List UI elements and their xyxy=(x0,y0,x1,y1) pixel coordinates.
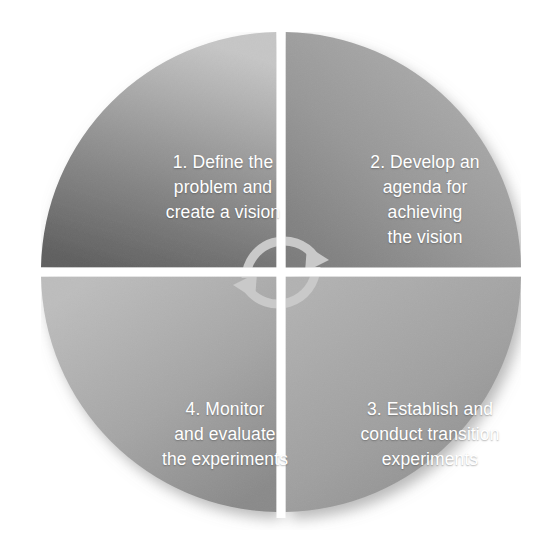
transition-cycle-diagram: 1. Define the problem and create a visio… xyxy=(0,0,558,558)
wheel-graphic xyxy=(41,32,521,530)
cycle-wheel: 1. Define the problem and create a visio… xyxy=(41,32,521,530)
